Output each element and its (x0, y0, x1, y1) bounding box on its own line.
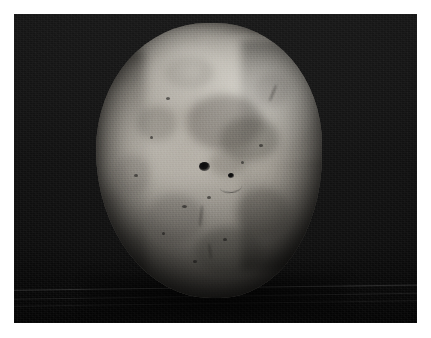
page-canvas: Close-up photograph of a single roundish… (0, 0, 431, 338)
potato-subject (96, 23, 322, 298)
photograph: Close-up photograph of a single roundish… (14, 14, 417, 323)
skin-grain-texture (96, 23, 322, 298)
potato-body (96, 23, 322, 298)
